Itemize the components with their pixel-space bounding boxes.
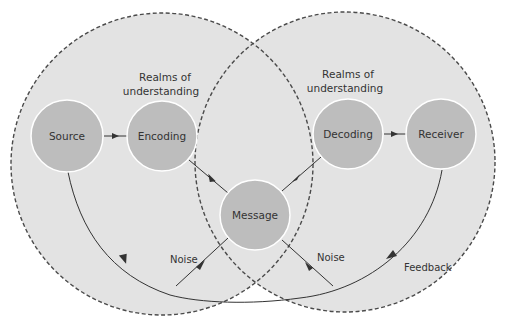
node-decoding-label: Decoding xyxy=(323,128,373,140)
node-source: Source xyxy=(31,100,103,172)
communication-diagram: Realms of understanding Realms of unders… xyxy=(0,0,509,329)
node-message-label: Message xyxy=(232,209,278,221)
node-decoding: Decoding xyxy=(313,99,383,169)
realm-label-receiver-line1: Realms of xyxy=(322,68,374,80)
node-encoding-label: Encoding xyxy=(138,130,186,142)
noise-right-label: Noise xyxy=(317,252,345,263)
node-encoding: Encoding xyxy=(127,101,197,171)
node-receiver: Receiver xyxy=(406,99,476,169)
realm-label-sender-line1: Realms of xyxy=(139,71,191,83)
noise-left-label: Noise xyxy=(170,254,198,265)
realm-label-receiver-line2: understanding xyxy=(307,82,383,94)
realm-label-sender-line2: understanding xyxy=(123,85,199,97)
node-receiver-label: Receiver xyxy=(418,128,464,140)
node-message: Message xyxy=(220,180,290,250)
node-source-label: Source xyxy=(49,130,85,142)
feedback-label: Feedback xyxy=(404,262,452,273)
